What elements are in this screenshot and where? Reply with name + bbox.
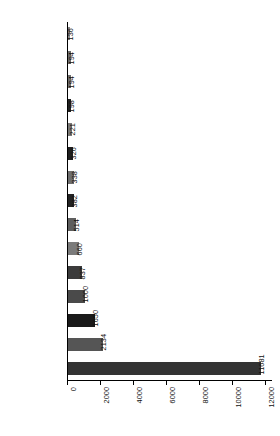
value-label: 382 xyxy=(71,195,78,207)
x-tick xyxy=(67,381,68,385)
x-tick-label: 0 xyxy=(70,387,77,391)
value-label: 194 xyxy=(68,52,75,64)
bar-row: PNG2134 xyxy=(67,332,272,356)
value-label: 221 xyxy=(68,123,75,135)
bar-row: Mexico221 xyxy=(67,117,272,141)
bar-row: Guatemala338 xyxy=(67,165,272,189)
value-label: 194 xyxy=(68,76,75,88)
x-tick-label: 12000 xyxy=(268,387,275,408)
value-label: 1650 xyxy=(92,310,99,326)
value-label: 136 xyxy=(67,28,74,40)
bar-row: Mongolia194 xyxy=(67,46,272,70)
x-tick xyxy=(265,381,266,385)
bar-row: Nicaragua136 xyxy=(67,22,272,46)
bar-row: Peru837 xyxy=(67,261,272,285)
x-tick xyxy=(166,381,167,385)
plot-area: Nicaragua136Mongolia194Australia194Malaw… xyxy=(67,22,272,380)
bar xyxy=(68,362,261,375)
x-axis: 020004000600080001000012000 xyxy=(67,381,272,436)
bar-row: CAR382 xyxy=(67,189,272,213)
value-label: 1000 xyxy=(81,286,88,302)
x-tick xyxy=(100,381,101,385)
bar-row: Australia194 xyxy=(67,70,272,94)
value-label: 660 xyxy=(76,243,83,255)
value-label: 2134 xyxy=(100,334,107,350)
x-tick-label: 8000 xyxy=(202,387,209,403)
bar-row: Nigeria326 xyxy=(67,141,272,165)
bar-row: Malawi198 xyxy=(67,94,272,118)
value-label: 326 xyxy=(70,147,77,159)
x-tick-label: 10000 xyxy=(235,387,242,408)
bar-row: Bolivia1000 xyxy=(67,285,272,309)
value-label: 837 xyxy=(78,267,85,279)
value-label: 198 xyxy=(68,100,75,112)
value-label: 514 xyxy=(73,219,80,231)
value-label: 11681 xyxy=(258,354,265,374)
x-tick xyxy=(199,381,200,385)
bar-row: South Korea660 xyxy=(67,237,272,261)
x-tick-label: 4000 xyxy=(136,387,143,403)
bar-row: Brazil11681 xyxy=(67,356,272,380)
x-tick xyxy=(133,381,134,385)
x-tick-label: 2000 xyxy=(103,387,110,403)
bar-chart: Nicaragua136Mongolia194Australia194Malaw… xyxy=(0,0,280,436)
value-label: 338 xyxy=(70,171,77,183)
x-tick-label: 6000 xyxy=(169,387,176,403)
bar-row: Indonesia514 xyxy=(67,213,272,237)
bar-row: Gabon1650 xyxy=(67,308,272,332)
x-tick xyxy=(232,381,233,385)
